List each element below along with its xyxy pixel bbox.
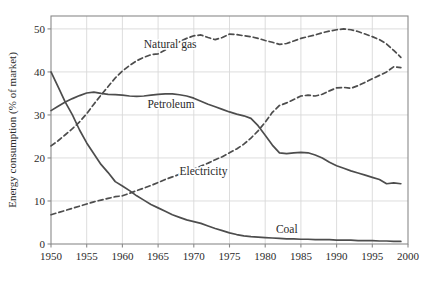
y-tick-label: 10 [34, 195, 46, 207]
x-tick-label: 1975 [219, 250, 242, 262]
y-tick-label: 30 [34, 109, 46, 121]
chart-figure: 0102030405019501955196019651970197519801… [0, 0, 436, 281]
x-tick-label: 2000 [397, 250, 420, 262]
x-tick-label: 1995 [361, 250, 384, 262]
x-tick-label: 1980 [254, 250, 277, 262]
x-tick-label: 1965 [147, 250, 170, 262]
y-tick-label: 40 [34, 66, 46, 78]
series-line-electricity [51, 67, 401, 215]
series-label-petroleum: Petroleum [147, 98, 194, 110]
x-tick-label: 1955 [76, 250, 99, 262]
series-label-electricity: Electricity [180, 165, 228, 178]
series-label-natural-gas: Natural gas [144, 38, 197, 51]
y-tick-label: 20 [34, 152, 46, 164]
series-line-coal [51, 72, 401, 242]
x-tick-label: 1990 [326, 250, 349, 262]
series-annotations: Natural gasNatural gasPetroleumPetroleum… [144, 38, 298, 234]
series-lines [51, 29, 401, 242]
series-label-coal: Coal [276, 223, 298, 235]
x-tick-label: 1985 [290, 250, 313, 262]
energy-consumption-line-chart: 0102030405019501955196019651970197519801… [0, 0, 436, 281]
x-tick-label: 1960 [111, 250, 134, 262]
y-tick-label: 50 [34, 23, 46, 35]
grid-lines [51, 16, 408, 244]
axis-ticks [48, 29, 409, 248]
x-tick-label: 1950 [40, 250, 63, 262]
y-tick-label: 0 [40, 238, 46, 250]
x-tick-label: 1970 [183, 250, 206, 262]
y-axis-title: Energy consumption (% of market) [6, 52, 19, 208]
tick-labels: 0102030405019501955196019651970197519801… [34, 23, 420, 262]
y-axis-label: Energy consumption (% of market) [6, 52, 19, 208]
